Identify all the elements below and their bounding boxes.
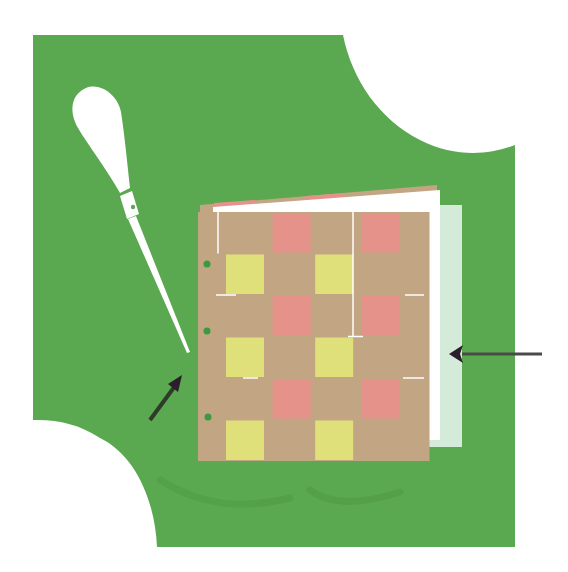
binding-hole: [205, 414, 212, 421]
binding-hole: [204, 328, 211, 335]
binding-hole: [204, 261, 211, 268]
weave-pink-square: [362, 296, 400, 336]
weave-pink-square: [362, 213, 400, 253]
weave-pink-square: [273, 379, 311, 419]
weave-pink-square: [273, 213, 311, 253]
weave-pink-square: [362, 379, 400, 419]
weave-yellow-square: [315, 338, 353, 378]
illustration-canvas: [0, 0, 568, 572]
illustration-stage: [0, 0, 568, 572]
weave-yellow-square: [315, 255, 353, 295]
woven-grid: [198, 212, 430, 461]
weave-pink-square: [273, 296, 311, 336]
weave-yellow-square: [226, 421, 264, 461]
weave-yellow-square: [226, 255, 264, 295]
weave-yellow-square: [226, 338, 264, 378]
weave-yellow-square: [315, 421, 353, 461]
